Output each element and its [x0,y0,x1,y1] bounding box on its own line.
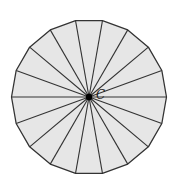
polygon-diagram: C [0,0,174,185]
center-label: C [96,88,105,102]
center-point [86,94,92,100]
